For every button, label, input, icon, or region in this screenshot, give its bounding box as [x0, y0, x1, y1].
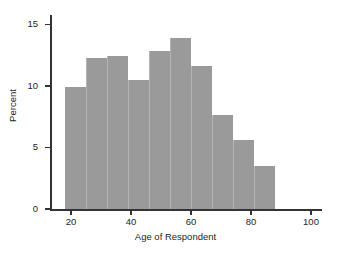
x-axis-line [50, 209, 322, 211]
x-axis-tick-label: 40 [116, 216, 146, 227]
histogram-bar [170, 38, 191, 209]
x-axis-tick-mark [310, 210, 312, 215]
histogram-bar [65, 87, 86, 209]
histogram-bar [212, 115, 233, 209]
histogram-bar [254, 166, 275, 209]
y-axis-ticks: 051015 [0, 0, 50, 259]
histogram-bar [191, 66, 212, 209]
histogram-bar [233, 140, 254, 209]
x-axis-tick-label: 20 [56, 216, 86, 227]
x-axis-tick-mark [250, 210, 252, 215]
histogram-figure: Percent 051015 20406080100 Age of Respon… [0, 0, 351, 259]
histogram-bar [149, 51, 170, 209]
x-axis-tick-label: 80 [236, 216, 266, 227]
histogram-bar [107, 56, 128, 209]
x-axis-tick-mark [130, 210, 132, 215]
y-axis-tick-label: 15 [8, 20, 38, 30]
y-axis-tick-label: 0 [8, 204, 38, 214]
y-axis-tick-label: 5 [8, 143, 38, 153]
x-axis-tick-mark [190, 210, 192, 215]
plot-area [50, 17, 320, 209]
histogram-bar [86, 58, 107, 209]
y-axis-tick-label: 10 [8, 81, 38, 91]
histogram-bar [128, 80, 149, 209]
x-axis-title: Age of Respondent [0, 231, 351, 242]
x-axis-tick-label: 60 [176, 216, 206, 227]
x-axis-tick-label: 100 [296, 216, 326, 227]
x-axis-tick-mark [70, 210, 72, 215]
histogram-bars [50, 17, 320, 209]
